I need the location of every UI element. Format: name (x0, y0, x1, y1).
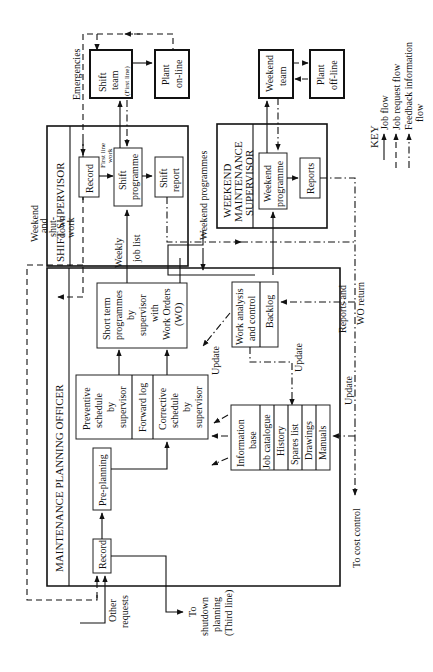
svg-text:with: with (149, 304, 160, 322)
svg-text:schedule: schedule (93, 392, 104, 428)
shift-report-node: Shift report (155, 157, 183, 197)
work-analysis-to-info-update-arrow (250, 347, 292, 405)
weekend-programme-node: Weekend programme (259, 153, 287, 209)
svg-text:by: by (181, 402, 192, 412)
key-legend: KEY Job flow Job request flow Feedback i… (368, 42, 425, 168)
svg-text:Work analysis: Work analysis (234, 288, 245, 345)
schedule-node: Preventive schedule by supervisor Forwar… (76, 375, 208, 439)
svg-text:Job request flow: Job request flow (391, 63, 402, 130)
svg-text:Corrective: Corrective (157, 387, 168, 430)
work-analysis-node: Work analysis and control Backlog (232, 282, 278, 347)
svg-text:Shift: Shift (158, 168, 169, 188)
svg-text:programme: programme (274, 160, 285, 207)
svg-text:Feedback information: Feedback information (403, 42, 414, 130)
svg-text:on-line: on-line (173, 59, 184, 88)
svg-text:Drawings: Drawings (303, 421, 314, 460)
svg-text:Work Orders: Work Orders (161, 288, 172, 340)
svg-text:Reports: Reports (305, 163, 316, 194)
svg-text:(Third line): (Third line) (223, 590, 235, 636)
pre-planning-node: Pre-planning (93, 448, 111, 510)
svg-text:supervisor: supervisor (137, 294, 148, 336)
reports-wo-return-label: Reports and (337, 285, 348, 333)
shift-record-node: Record (79, 157, 99, 197)
other-requests-label: Other (107, 599, 118, 622)
forward-log-node: Forward log (137, 383, 148, 432)
svg-text:Pre-planning: Pre-planning (97, 454, 108, 506)
svg-text:by: by (125, 310, 136, 320)
svg-text:work: work (65, 217, 76, 238)
maintenance-flow-diagram: Emergencies Shift team (First line) Plan… (0, 0, 433, 672)
svg-text:Preventive: Preventive (81, 387, 92, 430)
svg-text:work: work (106, 148, 114, 163)
svg-text:requests: requests (119, 595, 130, 628)
other-requests-arrow (80, 576, 105, 623)
svg-text:(WO): (WO) (173, 303, 185, 326)
svg-text:and control: and control (246, 296, 257, 341)
svg-text:Job catalogue: Job catalogue (261, 414, 272, 469)
svg-text:Short term: Short term (101, 297, 112, 340)
svg-text:Backlog: Backlog (264, 295, 275, 328)
reports-node: Reports (300, 158, 320, 198)
information-base-node: Information base Job catalogue History S… (231, 405, 330, 470)
info-to-schedule-arrow-1 (214, 415, 228, 423)
to-shutdown-label: To (187, 607, 198, 617)
to-cost-control-label: To cost control (351, 508, 362, 568)
po-record-node: Record (93, 539, 111, 573)
svg-text:team: team (277, 66, 288, 86)
svg-text:SHIFT SUPERVISOR: SHIFT SUPERVISOR (54, 162, 66, 262)
svg-text:base: base (247, 431, 258, 449)
svg-text:Weekend: Weekend (262, 165, 273, 202)
svg-text:Job flow: Job flow (379, 95, 390, 131)
svg-text:Spares list: Spares list (289, 423, 300, 465)
update-label-2: Update (293, 343, 304, 372)
svg-text:team: team (109, 70, 120, 90)
svg-text:programmes: programmes (113, 290, 124, 340)
plant-offline-node: Plant off-line (310, 50, 344, 98)
svg-text:Record: Record (97, 540, 108, 569)
work-analysis-update-arrow (203, 313, 230, 346)
svg-text:planning: planning (211, 597, 222, 632)
weekend-programmes-label: Weekend programmes (198, 150, 209, 240)
shift-team-node: Shift team (First line) (90, 50, 132, 98)
svg-text:schedule: schedule (169, 392, 180, 428)
svg-text:by: by (105, 402, 116, 412)
info-to-schedule-arrow-3 (212, 458, 228, 465)
svg-text:WO return: WO return (355, 282, 366, 325)
plant-online-node: Plant on-line (155, 50, 189, 98)
svg-text:report: report (170, 168, 181, 192)
svg-text:Record: Record (84, 164, 95, 193)
pre-planning-to-corrective-arrow (111, 442, 167, 469)
svg-text:programme: programme (129, 153, 140, 200)
shift-programme-node: Shift programme (114, 148, 142, 206)
svg-text:Plant: Plant (315, 64, 326, 85)
svg-text:supervisor: supervisor (193, 386, 204, 428)
update-label-3: Update (343, 376, 354, 405)
svg-text:supervisor: supervisor (117, 386, 128, 428)
svg-text:job list: job list (131, 234, 142, 263)
svg-text:Information: Information (235, 419, 246, 467)
svg-text:Weekend: Weekend (264, 55, 275, 92)
svg-text:flow: flow (414, 103, 425, 122)
svg-text:Manuals: Manuals (317, 425, 328, 460)
svg-text:(First line): (First line) (123, 66, 131, 96)
svg-text:shutdown: shutdown (199, 597, 210, 636)
update-label-1: Update (210, 346, 221, 375)
weekend-team-node: Weekend team (259, 50, 293, 98)
svg-text:Shift: Shift (97, 72, 108, 92)
svg-text:MAINTENANCE PLANNING OFFICER: MAINTENANCE PLANNING OFFICER (53, 384, 65, 572)
svg-text:off-line: off-line (328, 60, 339, 90)
svg-text:History: History (275, 426, 286, 456)
svg-text:Shift: Shift (117, 170, 128, 190)
emergencies-label: Emergencies (71, 48, 82, 100)
short-term-programmes-node: Short term programmes by supervisor with… (97, 283, 187, 348)
svg-text:Plant: Plant (160, 64, 171, 85)
svg-text:SUPERVISOR: SUPERVISOR (243, 149, 255, 216)
weekly-job-list-label: Weekly (113, 238, 124, 268)
